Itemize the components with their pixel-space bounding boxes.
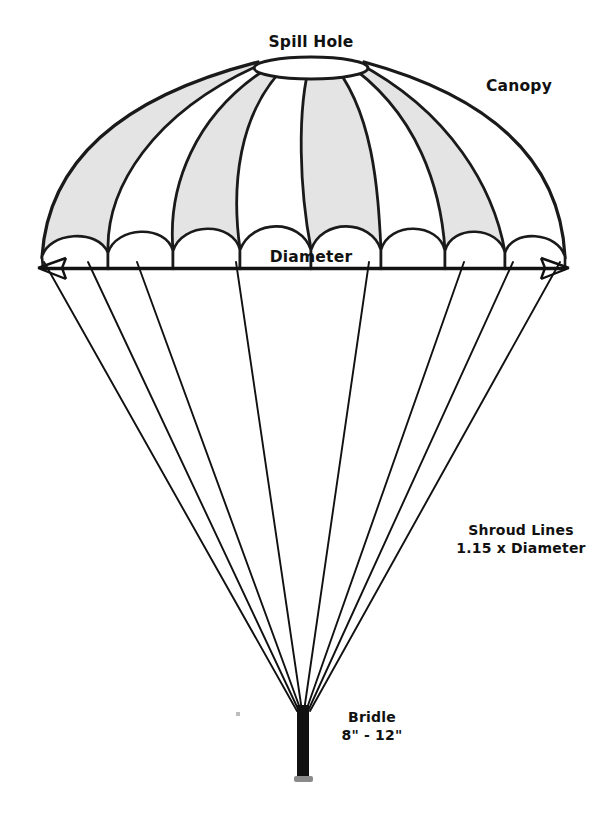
bridle-group (294, 705, 313, 782)
bridle-label: Bridle (348, 709, 396, 725)
bridle-end-cap (294, 776, 313, 782)
shroud-line-5 (304, 262, 369, 711)
shroud-line-6 (306, 262, 464, 711)
spill-hole-label: Spill Hole (268, 33, 353, 51)
shroud-lines-label: Shroud Lines (468, 522, 573, 538)
scan-artifact (236, 712, 240, 716)
bridle-bar (297, 705, 309, 778)
shroud-line-2 (88, 262, 299, 711)
shroud-line-8 (310, 262, 560, 711)
parachute-figure: Spill Hole Canopy Diameter Shroud Lines … (0, 0, 610, 816)
skirt-scallop-6 (381, 229, 445, 269)
shroud-line-1 (44, 262, 297, 711)
diameter-label: Diameter (270, 248, 353, 266)
shroud-line-3 (137, 262, 301, 711)
canopy-label: Canopy (486, 77, 552, 95)
bridle-spec-label: 8" - 12" (342, 727, 403, 743)
spill-hole-ring (254, 57, 368, 79)
shroud-lines-spec-label: 1.15 x Diameter (456, 540, 585, 556)
shroud-line-7 (308, 262, 513, 711)
shroud-lines-group (44, 262, 560, 711)
shroud-line-4 (236, 262, 302, 711)
skirt-scallop-7 (445, 232, 505, 269)
parachute-diagram: Spill Hole Canopy Diameter Shroud Lines … (0, 0, 610, 816)
